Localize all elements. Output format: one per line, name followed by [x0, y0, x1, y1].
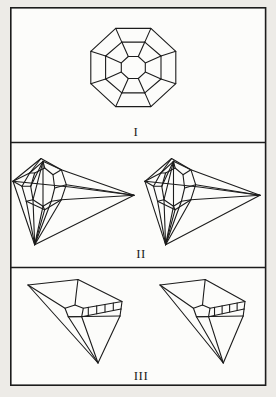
panel-label-1: I	[134, 124, 139, 139]
wireframe-edge	[196, 316, 243, 317]
wireframe-edge	[68, 316, 120, 317]
panel-label-2: II	[136, 246, 146, 261]
panel-label-3: III	[134, 368, 149, 383]
plate-figure-svg: I II III	[0, 0, 276, 397]
plate-outer-frame	[11, 8, 266, 385]
scanned-plate: I II III	[0, 0, 276, 397]
